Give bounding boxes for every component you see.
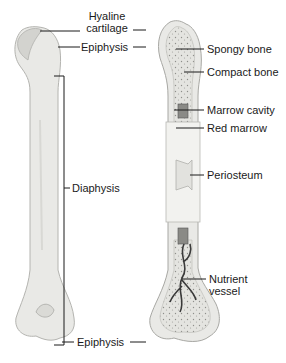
label-compact-bone: Compact bone xyxy=(207,66,279,78)
label-nutrient-line1: Nutrient xyxy=(209,273,248,285)
label-nutrient-vessel: Nutrient vessel xyxy=(209,273,248,297)
label-marrow-cavity: Marrow cavity xyxy=(207,104,275,116)
label-hyaline-cartilage: Hyaline cartilage xyxy=(82,10,132,34)
label-nutrient-line2: vessel xyxy=(209,285,248,297)
label-hyaline-line1: Hyaline xyxy=(82,10,132,22)
label-epiphysis-top: Epiphysis xyxy=(81,41,128,53)
label-diaphysis: Diaphysis xyxy=(72,182,120,194)
label-red-marrow: Red marrow xyxy=(207,122,267,134)
label-epiphysis-bottom: Epiphysis xyxy=(77,336,124,348)
bone-diagram: Hyaline cartilage Epiphysis Diaphysis Ep… xyxy=(0,0,286,363)
red-marrow-region xyxy=(178,104,188,118)
label-periosteum: Periosteum xyxy=(207,169,263,181)
label-spongy-bone: Spongy bone xyxy=(207,43,272,55)
external-bone xyxy=(15,27,74,340)
label-hyaline-line2: cartilage xyxy=(82,22,132,34)
